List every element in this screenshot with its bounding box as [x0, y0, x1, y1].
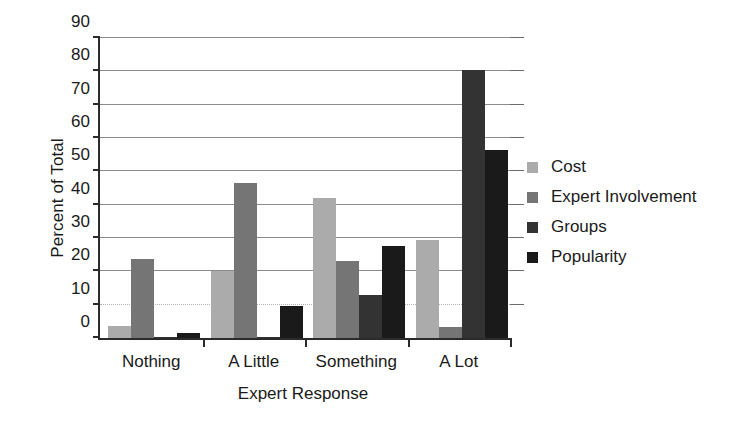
y-tick-label-0: 0: [30, 313, 90, 330]
bar-expert-involvement-nothing[interactable]: [131, 259, 154, 338]
y-tick-mark-right-70: [510, 104, 524, 105]
bar-expert-involvement-a-little[interactable]: [234, 183, 257, 338]
bar-group-something: [313, 38, 405, 338]
legend-swatch-icon: [527, 192, 538, 203]
y-tick-mark-70: [93, 103, 100, 105]
x-tick-mark-3: [408, 338, 410, 347]
legend-swatch-icon: [527, 222, 538, 233]
legend-item-cost[interactable]: Cost: [527, 152, 697, 182]
y-tick-label-80: 80: [30, 46, 90, 63]
bar-expert-involvement-something[interactable]: [336, 261, 359, 338]
y-tick-mark-0: [93, 336, 100, 338]
legend-item-groups[interactable]: Groups: [527, 212, 697, 242]
y-tick-label-10: 10: [30, 279, 90, 296]
y-tick-mark-90: [93, 36, 100, 38]
y-tick-mark-right-20: [510, 270, 524, 271]
chart-legend: CostExpert InvolvementGroupsPopularity: [527, 152, 697, 272]
bar-group-a-lot: [416, 38, 508, 338]
legend-item-expert-involvement[interactable]: Expert Involvement: [527, 182, 697, 212]
bar-popularity-nothing[interactable]: [177, 333, 200, 338]
bar-groups-nothing[interactable]: [154, 337, 177, 338]
bar-group-a-little: [211, 38, 303, 338]
legend-label: Groups: [551, 217, 607, 237]
y-tick-mark-right-50: [510, 170, 524, 171]
legend-label: Cost: [551, 157, 586, 177]
y-tick-label-20: 20: [30, 246, 90, 263]
bar-expert-involvement-a-lot[interactable]: [439, 327, 462, 338]
bar-groups-something[interactable]: [359, 295, 382, 338]
y-tick-label-30: 30: [30, 213, 90, 230]
y-tick-mark-right-40: [510, 204, 524, 205]
legend-swatch-icon: [527, 162, 538, 173]
y-tick-mark-50: [93, 169, 100, 171]
bars-layer: [100, 38, 510, 338]
y-tick-mark-60: [93, 136, 100, 138]
y-tick-mark-right-30: [510, 237, 524, 238]
y-tick-mark-10: [93, 303, 100, 305]
y-tick-label-50: 50: [30, 146, 90, 163]
bar-groups-a-lot[interactable]: [462, 70, 485, 338]
x-category-label-a-lot: A Lot: [399, 352, 519, 372]
y-tick-label-90: 90: [30, 13, 90, 30]
bar-group-nothing: [108, 38, 200, 338]
bar-chart-figure: Percent of Total 0102030405060708090 Not…: [0, 0, 737, 429]
y-tick-label-40: 40: [30, 179, 90, 196]
y-tick-label-70: 70: [30, 79, 90, 96]
plot-area: 0102030405060708090 NothingA LittleSomet…: [98, 38, 510, 340]
bar-cost-nothing[interactable]: [108, 326, 131, 338]
y-tick-mark-right-10: [510, 304, 524, 305]
bar-groups-a-little[interactable]: [257, 337, 280, 338]
bar-popularity-a-little[interactable]: [280, 306, 303, 338]
bar-popularity-a-lot[interactable]: [485, 150, 508, 338]
x-axis-title: Expert Response: [98, 384, 508, 404]
legend-item-popularity[interactable]: Popularity: [527, 242, 697, 272]
y-tick-mark-right-60: [510, 137, 524, 138]
bar-popularity-something[interactable]: [382, 246, 405, 338]
legend-label: Expert Involvement: [551, 187, 697, 207]
y-tick-mark-right-80: [510, 70, 524, 71]
y-tick-mark-right-90: [510, 37, 524, 38]
x-tick-mark-1: [203, 338, 205, 347]
legend-swatch-icon: [527, 252, 538, 263]
x-tick-mark-2: [305, 338, 307, 347]
legend-label: Popularity: [551, 247, 627, 267]
bar-cost-a-little[interactable]: [211, 271, 234, 338]
x-tick-mark-end: [510, 338, 512, 347]
y-tick-mark-80: [93, 69, 100, 71]
y-tick-label-60: 60: [30, 113, 90, 130]
y-tick-mark-30: [93, 236, 100, 238]
bar-cost-something[interactable]: [313, 198, 336, 338]
y-tick-mark-20: [93, 269, 100, 271]
y-tick-mark-40: [93, 203, 100, 205]
bar-cost-a-lot[interactable]: [416, 240, 439, 338]
